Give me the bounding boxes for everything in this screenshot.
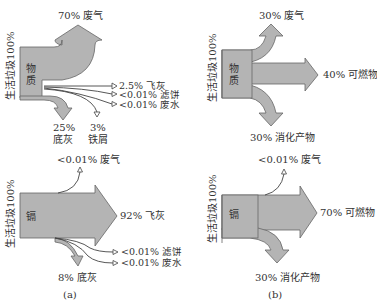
label-waste-water: <0.01% 废水 [119,99,180,110]
flow-waste-gas [20,25,102,98]
input-label: 生活垃圾100% [4,179,16,248]
label-combustibles: 40% 可燃物 [323,68,377,80]
label-bottom-ash-pct: 25% [53,122,75,133]
arrowhead [113,261,118,266]
flow-waste-gas [265,174,284,195]
source-block [222,195,258,238]
panel-b-bottom: <0.01% 废气 70% 可燃物 30% 消化产物 镉 生活垃圾100% (b… [206,153,375,300]
panel-a-top: 70% 废气 2.5% 飞灰 <0.01% 滤饼 <0.01% 废水 25% 底… [4,9,180,145]
input-label: 生活垃圾100% [206,174,218,243]
label-bottom-ash: 8% 底灰 [58,271,97,283]
arrowhead [112,83,117,89]
inner-label-2: 质 [26,75,36,86]
inner-label: 镉 [229,208,239,220]
flow-bottom-ash [20,96,72,120]
label-iron-scrap-pct: 3% [90,122,106,133]
label-combustibles: 70% 可燃物 [320,206,375,218]
panel-a-bottom: <0.01% 废气 92% 飞灰 <0.01% 滤饼 <0.01% 废水 8% … [4,153,182,300]
label-iron-scrap: 铁屑 [88,133,108,145]
flow-waste-gas [58,172,80,193]
label-waste-gas: 30% 废气 [259,9,304,21]
source-block [222,50,252,98]
label-digestate: 30% 消化产物 [255,271,320,283]
label-filter-cake: <0.01% 滤饼 [121,246,182,257]
arrowhead [94,112,100,117]
inner-label: 镉 [26,210,36,222]
arrowhead [282,169,287,174]
flow-filter-cake [44,87,112,94]
label-bottom-ash: 底灰 [53,133,73,145]
label-waste-water: <0.01% 废水 [121,257,182,268]
label-waste-gas: <0.01% 废气 [258,153,321,165]
label-waste-gas: 70% 废气 [58,9,103,21]
sankey-figure: 70% 废气 2.5% 飞灰 <0.01% 滤饼 <0.01% 废水 25% 底… [0,0,377,305]
label-waste-gas: <0.01% 废气 [57,153,120,165]
inner-label-1: 物 [229,62,239,74]
input-label: 生活垃圾100% [206,33,218,102]
input-label: 生活垃圾100% [4,31,16,100]
arrowhead [112,102,117,107]
inner-label-1: 物 [26,62,36,74]
label-digestate: 30% 消化产物 [250,131,315,143]
caption-a: (a) [63,289,77,300]
label-fly-ash: 92% 飞灰 [120,209,165,221]
panel-b-top: 30% 废气 40% 可燃物 30% 消化产物 物 质 生活垃圾100% [206,9,377,143]
arrowhead [78,167,83,172]
arrowhead [113,250,118,255]
arrowhead [112,92,117,97]
caption-b: (b) [268,289,282,300]
inner-label-2: 质 [229,75,239,86]
